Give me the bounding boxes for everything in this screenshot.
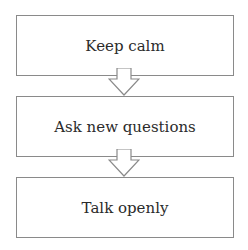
down-arrow-icon [108,149,140,177]
down-arrow-icon [108,68,140,96]
step-box-1: Keep calm [16,15,234,76]
step-label-2: Ask new questions [54,118,196,136]
step-label-3: Talk openly [82,199,169,217]
step-box-2: Ask new questions [16,96,234,157]
step-box-3: Talk openly [16,177,234,238]
step-label-1: Keep calm [85,37,164,55]
